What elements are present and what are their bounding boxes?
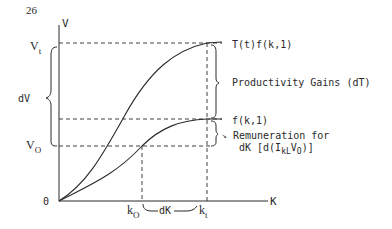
upper-curve-label: T(t)f(k,1) (232, 39, 292, 50)
dv-brace (46, 47, 57, 146)
guide-lines (59, 43, 222, 201)
v0-label: VO (26, 138, 42, 155)
lower-curve-label: f(k,1) (232, 115, 268, 126)
remuneration-label-line1: Remuneration for (233, 130, 329, 141)
vt-label: Vt (30, 39, 42, 56)
k0-label: kO (127, 203, 140, 220)
dv-label: dV (18, 93, 30, 104)
dk-label: dK (159, 205, 171, 216)
page-number: 26 (26, 4, 38, 16)
kt-label: kt (199, 203, 208, 220)
y-axis-label: V (62, 17, 69, 30)
dk-bracket-right (174, 206, 197, 211)
origin-label: 0 (43, 196, 49, 207)
productivity-gains-label: Productivity Gains (dT) (232, 77, 370, 88)
upper-curve (59, 42, 222, 201)
productivity-brace (211, 45, 219, 118)
pointer-mark: ↘ (222, 131, 227, 140)
dk-bracket-left (143, 204, 158, 211)
production-function-diagram: 26 V K 0 dV Vt VO T(t)f(k,1) f(k,1) Prod… (0, 0, 392, 229)
remuneration-brace (211, 121, 218, 146)
lower-curve (59, 119, 222, 201)
remuneration-label-line2: dK [d(IkLVO)] (239, 142, 314, 156)
x-axis-label: K (270, 195, 277, 208)
